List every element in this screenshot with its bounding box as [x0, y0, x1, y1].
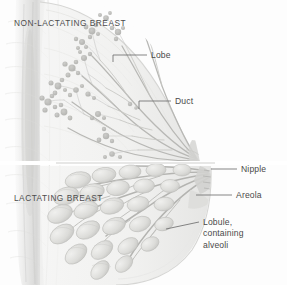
label-nipple: Nipple — [241, 164, 266, 175]
label-lobule: Lobule, containing alveoli — [203, 217, 273, 251]
label-lobule-line-2: containing — [203, 228, 273, 239]
label-areola: Areola — [236, 190, 262, 201]
label-lobe: Lobe — [151, 50, 171, 61]
illustration-canvas: NON-LACTATING BREAST LACTATING BREAST Lo… — [0, 0, 287, 285]
label-lobule-line-1: Lobule, — [203, 217, 273, 228]
section-header-lactating: LACTATING BREAST — [14, 193, 103, 203]
label-duct: Duct — [175, 96, 193, 107]
label-lobule-line-3: alveoli — [203, 240, 273, 251]
section-header-non-lactating: NON-LACTATING BREAST — [14, 18, 126, 28]
